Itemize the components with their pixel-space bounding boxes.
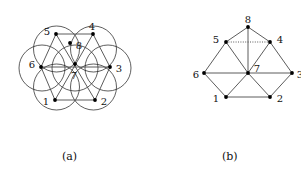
vertex-7[interactable] [73, 62, 77, 66]
edge-7-2 [248, 73, 270, 97]
vertex-label-5: 5 [213, 34, 219, 45]
edge-5-6 [204, 42, 226, 73]
vertex-6[interactable] [202, 71, 206, 75]
vertex-1[interactable] [224, 95, 228, 99]
figure-svg: 1234567812345678 [0, 0, 301, 182]
vertex-2[interactable] [93, 98, 97, 102]
vertex-label-7: 7 [71, 70, 77, 81]
vertex-label-5: 5 [44, 26, 50, 37]
vertex-5[interactable] [54, 32, 58, 36]
vertex-6[interactable] [39, 65, 43, 69]
vertex-7[interactable] [246, 71, 250, 75]
vertex-label-1: 1 [43, 96, 49, 107]
vertex-label-4: 4 [89, 21, 95, 32]
panel-b: 12345678 [193, 14, 301, 104]
vertex-3[interactable] [290, 71, 294, 75]
vertex-label-6: 6 [29, 59, 35, 70]
vertex-label-3: 3 [297, 69, 301, 80]
vertex-8[interactable] [246, 25, 250, 29]
edge-8-4 [248, 27, 270, 42]
edge-5-6 [41, 34, 56, 67]
caption-panel-b: (b) [222, 150, 238, 163]
edge-3-4 [93, 34, 110, 67]
vertex-label-4: 4 [277, 34, 283, 45]
vertex-label-8: 8 [245, 14, 251, 25]
edge-8-5 [226, 27, 248, 42]
figure-root: 1234567812345678 (a) (b) [0, 0, 301, 182]
vertex-label-7: 7 [254, 63, 260, 74]
packing-circle-right [85, 45, 131, 91]
edge-3-4 [270, 42, 292, 73]
vertex-label-2: 2 [101, 96, 107, 107]
vertex-2[interactable] [268, 95, 272, 99]
edge-7-5 [226, 42, 248, 73]
caption-panel-a: (a) [62, 150, 77, 163]
vertex-1[interactable] [53, 98, 57, 102]
vertex-4[interactable] [91, 32, 95, 36]
vertex-label-8: 8 [76, 40, 82, 51]
vertex-label-1: 1 [213, 93, 219, 104]
vertex-5[interactable] [224, 40, 228, 44]
graph-vertices: 12345678 [193, 14, 301, 104]
vertex-4[interactable] [268, 40, 272, 44]
vertex-3[interactable] [108, 65, 112, 69]
vertex-8[interactable] [68, 41, 72, 45]
panel-a: 12345678 [19, 21, 131, 111]
vertex-label-2: 2 [277, 93, 283, 104]
vertex-label-3: 3 [116, 63, 122, 74]
edge-7-1 [226, 73, 248, 97]
vertex-label-6: 6 [193, 69, 199, 80]
